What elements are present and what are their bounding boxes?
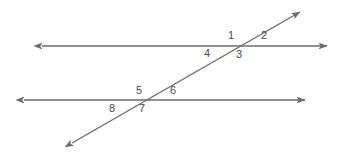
angle-label-4: 4 <box>204 48 210 59</box>
geometry-canvas <box>0 0 347 155</box>
angle-label-8: 8 <box>109 103 115 114</box>
angle-label-3: 3 <box>236 49 242 60</box>
angle-label-5: 5 <box>136 85 142 96</box>
angle-label-6: 6 <box>170 85 176 96</box>
angle-label-7: 7 <box>139 103 145 114</box>
angle-label-1: 1 <box>228 30 234 41</box>
geometry-figure: 12345678 <box>0 0 347 155</box>
angle-label-2: 2 <box>261 30 267 41</box>
